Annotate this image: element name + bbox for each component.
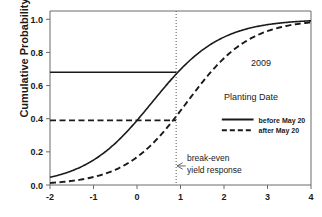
- series-line-after-may-20: [50, 22, 311, 183]
- chart-canvas: -2-101234 0.00.20.40.60.81.0 2009break-e…: [0, 0, 322, 217]
- y-axis-ticks: 0.00.20.40.60.81.0: [30, 15, 50, 191]
- annotation-break-even-line2: yield response: [187, 165, 242, 175]
- x-tick-label: -2: [46, 192, 54, 202]
- y-tick-label: 0.6: [30, 81, 43, 91]
- legend-label: before May 20: [259, 117, 306, 125]
- x-tick-label: 4: [308, 192, 313, 202]
- x-tick-label: 3: [265, 192, 270, 202]
- x-tick-label: 0: [134, 192, 139, 202]
- legend: Planting Datebefore May 20after May 20: [222, 92, 306, 136]
- y-tick-label: 0.0: [30, 181, 43, 191]
- legend-title: Planting Date: [224, 92, 278, 102]
- figure-container: Cumulative Probability -2-101234 0.00.20…: [0, 0, 322, 217]
- break-even-arrow: [177, 163, 186, 169]
- y-tick-label: 0.8: [30, 48, 43, 58]
- x-tick-label: -1: [89, 192, 97, 202]
- y-tick-label: 0.4: [30, 114, 43, 124]
- x-tick-label: 2: [221, 192, 226, 202]
- data-series: [50, 21, 311, 183]
- y-tick-label: 1.0: [30, 15, 43, 25]
- annotation-year: 2009: [251, 58, 271, 68]
- annotation-break-even-line1: break-even: [187, 153, 230, 163]
- y-tick-label: 0.2: [30, 147, 43, 157]
- x-axis-ticks: -2-101234: [46, 185, 314, 202]
- legend-label: after May 20: [259, 127, 300, 135]
- reference-lines: [50, 11, 176, 185]
- x-tick-label: 1: [178, 192, 183, 202]
